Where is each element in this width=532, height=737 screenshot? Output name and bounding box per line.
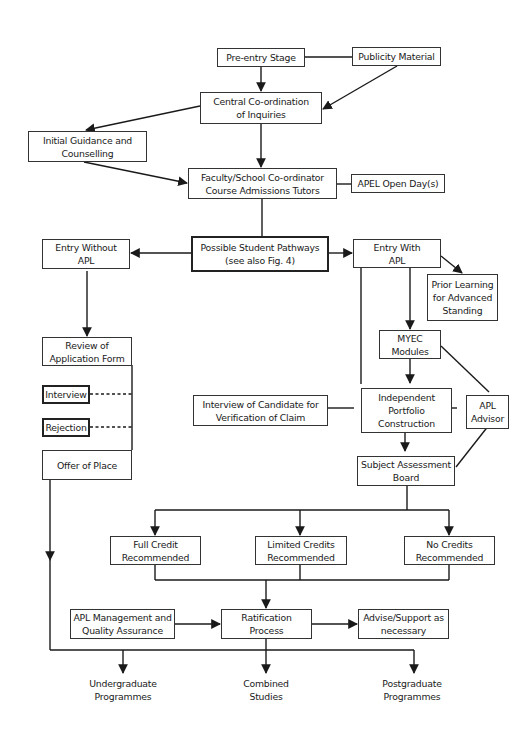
node-label: Course Admissions Tutors	[205, 184, 319, 197]
node-label: Possible Student Pathways	[200, 241, 319, 254]
node-label: Pre-entry Stage	[226, 51, 296, 64]
interview-node: Interview	[42, 385, 90, 404]
node-label: Full Credit	[133, 538, 178, 551]
limited-credits-node: Limited Credits Recommended	[255, 536, 347, 565]
full-credit-node: Full Credit Recommended	[110, 536, 201, 565]
pre-entry-stage-node: Pre-entry Stage	[217, 48, 305, 67]
interview-candidate-node: Interview of Candidate for Verification …	[193, 395, 328, 426]
node-label: APEL Open Day(s)	[357, 177, 438, 190]
node-label: of Inquiries	[236, 108, 286, 121]
myec-modules-node: MYEC Modules	[379, 330, 441, 359]
outcome-label: Postgraduate	[362, 677, 462, 690]
node-label: for Advanced	[433, 291, 492, 304]
node-label: Review of	[65, 339, 108, 352]
initial-guidance-node: Initial Guidance and Counselling	[28, 131, 147, 162]
apl-flowchart: Pre-entry Stage Publicity Material Centr…	[0, 0, 532, 737]
publicity-material-node: Publicity Material	[352, 47, 441, 66]
node-label: Central Co-ordination	[213, 95, 309, 108]
node-label: Application Form	[49, 352, 124, 365]
node-label: Subject Assessment	[361, 458, 451, 471]
node-label: APL	[78, 254, 95, 267]
node-label: Prior Learning	[432, 278, 494, 291]
faculty-coordinator-node: Faculty/School Co-ordinator Course Admis…	[188, 168, 337, 199]
node-label: Recommended	[267, 551, 335, 564]
independent-portfolio-node: Independent Portfolio Construction	[361, 388, 452, 433]
node-label: Recommended	[122, 551, 190, 564]
node-label: necessary	[381, 624, 426, 637]
node-label: Initial Guidance and	[43, 134, 132, 147]
node-label: Construction	[378, 417, 435, 430]
outcome-label: Combined	[216, 677, 316, 690]
node-label: Independent	[378, 391, 435, 404]
node-label: Publicity Material	[358, 50, 434, 63]
rejection-node: Rejection	[42, 418, 90, 437]
node-label: Entry With	[374, 241, 421, 254]
subject-assessment-board-node: Subject Assessment Board	[357, 456, 455, 486]
node-label: Limited Credits	[267, 538, 334, 551]
prior-learning-node: Prior Learning for Advanced Standing	[427, 274, 498, 321]
node-label: APL	[479, 399, 496, 412]
node-label: Ratification	[241, 611, 291, 624]
outcome-label: Programmes	[73, 690, 173, 703]
node-label: Advise/Support as	[363, 611, 444, 624]
node-label: APL Management and	[73, 611, 171, 624]
node-label: Interview of Candidate for	[202, 398, 318, 411]
node-label: Recommended	[416, 551, 484, 564]
apl-advisor-node: APL Advisor	[466, 395, 509, 429]
node-label: Offer of Place	[57, 459, 117, 472]
node-label: Counselling	[62, 147, 114, 160]
review-application-node: Review of Application Form	[42, 337, 132, 366]
node-label: Standing	[443, 304, 483, 317]
node-label: Advisor	[471, 412, 504, 425]
apel-open-day-node: APEL Open Day(s)	[351, 174, 445, 193]
entry-with-apl-node: Entry With APL	[353, 239, 441, 268]
node-label: MYEC	[397, 332, 422, 345]
offer-of-place-node: Offer of Place	[42, 450, 132, 480]
node-label: Modules	[391, 345, 428, 358]
node-label: Entry Without	[55, 241, 116, 254]
apl-management-node: APL Management and Quality Assurance	[70, 609, 175, 639]
node-label: Process	[250, 624, 284, 637]
node-label: Portfolio	[388, 404, 424, 417]
node-label: APL	[389, 254, 406, 267]
node-label: (see also Fig. 4)	[225, 254, 295, 267]
no-credits-node: No Credits Recommended	[404, 536, 495, 565]
node-label: Board	[393, 471, 419, 484]
node-label: Interview	[45, 388, 86, 401]
node-label: Faculty/School Co-ordinator	[201, 171, 324, 184]
ratification-process-node: Ratification Process	[221, 609, 312, 639]
node-label: Quality Assurance	[82, 624, 163, 637]
combined-studies-label: Combined Studies	[216, 677, 316, 703]
undergraduate-programmes-label: Undergraduate Programmes	[73, 677, 173, 703]
outcome-label: Programmes	[362, 690, 462, 703]
entry-without-apl-node: Entry Without APL	[42, 239, 130, 269]
node-label: No Credits	[426, 538, 472, 551]
possible-student-pathways-node: Possible Student Pathways (see also Fig.…	[191, 236, 329, 272]
outcome-label: Studies	[216, 690, 316, 703]
outcome-label: Undergraduate	[73, 677, 173, 690]
central-coordination-node: Central Co-ordination of Inquiries	[200, 92, 322, 124]
advise-support-node: Advise/Support as necessary	[358, 609, 449, 639]
postgraduate-programmes-label: Postgraduate Programmes	[362, 677, 462, 703]
node-label: Rejection	[45, 421, 86, 434]
node-label: Verification of Claim	[216, 411, 305, 424]
